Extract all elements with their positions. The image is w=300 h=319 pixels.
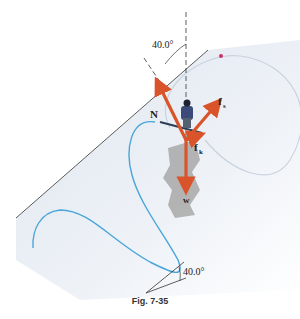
svg-text:f: f — [194, 141, 198, 153]
svg-text:k: k — [199, 148, 203, 156]
start-marker — [219, 54, 223, 58]
skier-slope-diagram: 40.0° N f s f k w 40.0° — [0, 0, 300, 319]
svg-text:f: f — [218, 95, 222, 107]
bottom-angle-label: 40.0° — [183, 266, 205, 277]
label-w: w — [183, 195, 190, 205]
svg-text:s: s — [223, 102, 226, 110]
label-N: N — [150, 108, 158, 120]
top-angle-label: 40.0° — [152, 39, 174, 50]
figure-caption: Fig. 7-35 — [0, 296, 300, 306]
